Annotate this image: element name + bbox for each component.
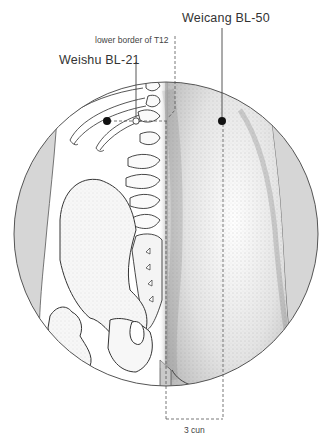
t12-marker: [133, 118, 139, 124]
t12-label: lower border of T12: [95, 35, 169, 45]
weishu-point: [103, 117, 111, 125]
circle-content: [0, 0, 327, 447]
weicang-label: Weicang BL-50: [182, 11, 270, 25]
diagram-illustration: [0, 0, 327, 447]
weicang-point: [218, 117, 226, 125]
weishu-label: Weishu BL-21: [59, 53, 140, 67]
cun-measure-label: 3 cun: [184, 425, 205, 435]
obturator-foramen: [130, 322, 144, 345]
acupuncture-diagram: Weicang BL-50 lower border of T12 Weishu…: [0, 0, 327, 447]
